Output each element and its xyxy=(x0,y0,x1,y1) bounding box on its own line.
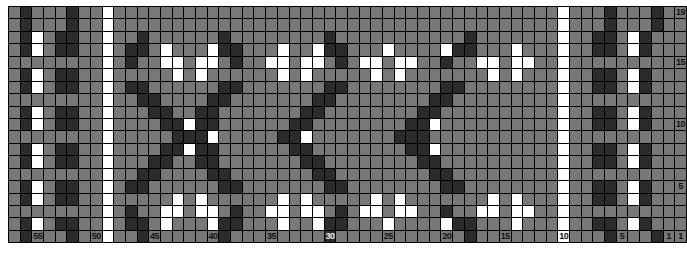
chart-cell xyxy=(196,69,208,81)
chart-cell xyxy=(429,44,441,56)
chart-cell xyxy=(394,94,406,106)
chart-cell xyxy=(184,106,196,118)
chart-cell xyxy=(277,193,289,205)
chart-cell xyxy=(137,7,149,19)
chart-cell xyxy=(476,81,488,93)
chart-cell xyxy=(336,156,348,168)
chart-cell xyxy=(184,218,196,230)
chart-cell xyxy=(266,193,278,205)
chart-cell xyxy=(184,143,196,155)
chart-cell xyxy=(301,131,313,143)
chart-cell xyxy=(581,131,593,143)
chart-cell xyxy=(651,81,663,93)
chart-cell xyxy=(663,218,675,230)
chart-cell xyxy=(546,31,558,43)
chart-cell xyxy=(125,19,137,31)
chart-cell xyxy=(289,69,301,81)
chart-cell xyxy=(289,118,301,130)
chart-cell xyxy=(570,131,582,143)
chart-cell xyxy=(359,218,371,230)
chart-cell xyxy=(172,7,184,19)
chart-cell xyxy=(137,143,149,155)
chart-cell xyxy=(231,56,243,68)
chart-cell xyxy=(429,156,441,168)
chart-cell xyxy=(277,31,289,43)
chart-cell xyxy=(534,94,546,106)
chart-cell xyxy=(44,118,56,130)
chart-cell xyxy=(371,56,383,68)
row-axis-cell xyxy=(675,131,687,143)
chart-cell xyxy=(277,156,289,168)
chart-cell xyxy=(242,156,254,168)
chart-grid-container: 191510555504540353025201510511 xyxy=(8,6,687,243)
chart-cell xyxy=(55,19,67,31)
chart-cell xyxy=(266,69,278,81)
chart-cell xyxy=(488,143,500,155)
chart-cell xyxy=(453,7,465,19)
chart-cell xyxy=(160,106,172,118)
chart-cell xyxy=(160,206,172,218)
row-tick-label: 1 xyxy=(675,231,686,242)
chart-cell xyxy=(651,7,663,19)
chart-cell xyxy=(663,69,675,81)
chart-cell xyxy=(347,44,359,56)
chart-cell xyxy=(593,7,605,19)
chart-cell xyxy=(79,230,91,242)
chart-cell xyxy=(125,118,137,130)
chart-cell xyxy=(44,7,56,19)
chart-cell xyxy=(476,94,488,106)
chart-cell xyxy=(254,218,266,230)
chart-cell xyxy=(160,56,172,68)
chart-cell xyxy=(570,106,582,118)
row-axis-cell xyxy=(675,69,687,81)
chart-cell xyxy=(266,44,278,56)
chart-cell xyxy=(523,44,535,56)
chart-cell xyxy=(219,131,231,143)
chart-cell xyxy=(581,81,593,93)
chart-cell xyxy=(558,19,570,31)
chart-cell xyxy=(628,7,640,19)
chart-cell xyxy=(9,56,21,68)
chart-cell xyxy=(149,19,161,31)
chart-cell xyxy=(137,230,149,242)
chart-cell xyxy=(67,44,79,56)
chart-cell xyxy=(125,168,137,180)
chart-cell xyxy=(546,69,558,81)
chart-cell xyxy=(593,94,605,106)
chart-cell xyxy=(219,218,231,230)
chart-cell xyxy=(219,31,231,43)
chart-cell xyxy=(207,81,219,93)
chart-cell xyxy=(277,218,289,230)
chart-cell xyxy=(207,31,219,43)
chart-cell xyxy=(663,106,675,118)
chart-cell xyxy=(231,7,243,19)
chart-cell xyxy=(254,94,266,106)
chart-cell xyxy=(231,44,243,56)
chart-cell xyxy=(219,143,231,155)
chart-cell xyxy=(312,19,324,31)
chart-cell xyxy=(651,69,663,81)
chart-cell xyxy=(593,143,605,155)
chart-cell xyxy=(79,81,91,93)
chart-cell xyxy=(394,56,406,68)
chart-cell xyxy=(371,44,383,56)
chart-cell xyxy=(651,131,663,143)
chart-cell xyxy=(581,193,593,205)
chart-cell xyxy=(359,193,371,205)
chart-cell xyxy=(628,181,640,193)
chart-cell xyxy=(125,218,137,230)
chart-cell xyxy=(219,106,231,118)
chart-cell xyxy=(605,218,617,230)
chart-cell xyxy=(371,218,383,230)
chart-cell xyxy=(219,156,231,168)
chart-cell xyxy=(254,106,266,118)
chart-cell xyxy=(628,81,640,93)
chart-cell xyxy=(184,181,196,193)
chart-cell xyxy=(312,206,324,218)
chart-cell xyxy=(266,143,278,155)
column-tick-label: 35 xyxy=(266,231,277,242)
chart-cell xyxy=(383,81,395,93)
chart-cell xyxy=(137,118,149,130)
chart-cell xyxy=(511,106,523,118)
chart-cell xyxy=(266,168,278,180)
